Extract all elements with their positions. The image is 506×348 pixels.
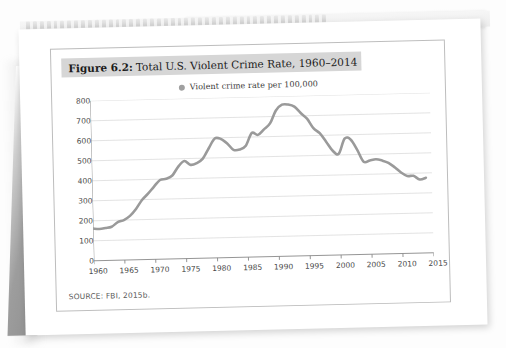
x-tick-1990: 1990 — [274, 262, 293, 271]
legend-label: Violent crime rate per 100,000 — [190, 79, 319, 91]
y-tick-100: 100 — [79, 236, 94, 245]
x-tick-2015: 2015 — [428, 258, 447, 267]
y-tick-600: 600 — [77, 136, 92, 145]
figure-source: SOURCE: FBI, 2015b. — [69, 290, 151, 301]
x-tick-2000: 2000 — [336, 261, 355, 270]
y-tick-800: 800 — [76, 96, 91, 105]
legend-marker-icon — [179, 84, 185, 90]
y-tick-200: 200 — [79, 216, 94, 225]
x-tick-2010: 2010 — [398, 259, 417, 268]
x-tick-1975: 1975 — [181, 264, 200, 273]
x-tick-1960: 1960 — [89, 266, 108, 275]
x-tick-1995: 1995 — [305, 261, 324, 270]
x-tick-1980: 1980 — [212, 264, 231, 273]
figure-title-band: Figure 6.2: Total U.S. Violent Crime Rat… — [61, 51, 361, 77]
plot-area: 0100200300400500600700800 19601965197019… — [64, 93, 440, 287]
x-tick-1985: 1985 — [243, 263, 262, 272]
figure-number: Figure 6.2: — [68, 60, 133, 74]
y-tick-700: 700 — [76, 116, 91, 125]
chart-legend: Violent crime rate per 100,000 — [52, 76, 445, 94]
book-photo: Figure 6.2: Total U.S. Violent Crime Rat… — [0, 0, 506, 348]
x-tick-2005: 2005 — [367, 260, 386, 269]
x-tick-1970: 1970 — [150, 265, 169, 274]
line-chart-svg — [90, 93, 434, 267]
y-tick-400: 400 — [78, 176, 93, 185]
book-page: Figure 6.2: Total U.S. Violent Crime Rat… — [18, 19, 487, 336]
figure-title: Total U.S. Violent Crime Rate, 1960–2014 — [136, 55, 358, 72]
y-tick-300: 300 — [78, 196, 93, 205]
x-tick-1965: 1965 — [119, 266, 138, 275]
y-axis-tick-labels: 0100200300400500600700800 — [64, 101, 94, 262]
y-tick-500: 500 — [77, 156, 92, 165]
figure-container: Figure 6.2: Total U.S. Violent Crime Rat… — [50, 39, 451, 311]
